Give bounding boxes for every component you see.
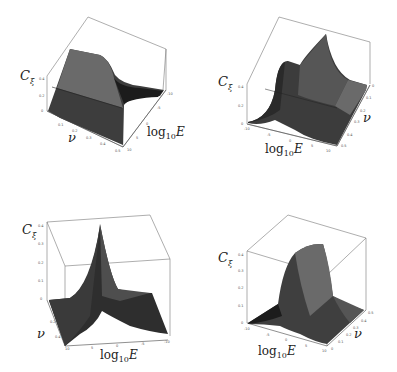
plot-panel-1: Cξ ν log10E 0 0.2 0.4 0.1 0.2 0.3 0.4 0.… [0,0,198,186]
z-tick: 0.3 [38,242,44,246]
z-axis-label: Cξ [218,250,232,268]
y-tick: 0.4 [361,319,367,323]
x-tick: 0.1 [58,123,64,127]
y-tick: 0.1 [366,96,372,100]
plot-panel-4: Cξ log10E ν 0 0.1 0.2 0.3 0.4 -10 -5 0 5… [200,186,397,372]
z-tick: 0.2 [238,104,244,108]
y-tick: 0 [146,122,148,126]
x-tick: 10 [65,347,69,351]
z-tick: 0 [241,321,243,325]
z-tick: 0.1 [238,304,244,308]
x-tick: -10 [244,327,250,331]
y-tick: 0.5 [341,144,347,148]
loge-axis-label: log10E [147,125,185,141]
z-tick: 0.2 [39,94,45,98]
y-tick: 0.3 [353,326,359,330]
y-tick: -5 [157,106,161,110]
x-tick: 0.3 [86,136,92,140]
x-tick: 5 [311,144,313,148]
y-tick: 0.5 [368,311,374,315]
x-tick: 5 [91,346,93,350]
x-tick: -5 [266,333,270,337]
y-tick: 0.2 [360,109,366,113]
y-tick: 0.1 [338,340,344,344]
z-tick: 0.4 [38,224,44,228]
x-tick: 0 [289,139,291,143]
x-tick: 0.2 [72,129,78,133]
y-tick: 5 [136,136,138,140]
z-tick: 0.4 [238,253,244,257]
z-axis-label: Cξ [218,74,232,92]
y-tick: 0.4 [347,133,353,137]
x-tick: -5 [141,342,145,346]
plot-panel-2: Cξ log10E ν 0 0.2 0.4 -10 -5 0 5 10 0 0.… [200,0,397,186]
loge-axis-label: log10E [265,142,303,158]
z-axis-label: Cξ [22,222,36,240]
x-tick: 0 [116,344,118,348]
z-tick: 0.2 [238,286,244,290]
surface-plot-3 [0,186,198,372]
y-tick: 0.4 [55,335,61,339]
y-tick: 0.3 [354,120,360,124]
x-tick: 10 [326,149,330,153]
x-tick: 5 [305,344,307,348]
y-tick: 10 [127,148,131,152]
y-tick: -10 [167,92,173,96]
surface-plot-4 [200,186,397,372]
z-tick: 0 [241,122,243,126]
x-tick: -5 [267,133,271,137]
z-tick: 0.4 [238,85,244,89]
z-tick: 0.3 [238,269,244,273]
z-axis-label: Cξ [20,68,34,86]
y-tick: 0.2 [50,320,56,324]
z-tick: 0.2 [38,261,44,265]
z-tick: 0 [41,109,43,113]
x-tick: -10 [164,340,170,344]
loge-axis-label: log10E [100,348,138,364]
x-tick: 0.4 [100,142,106,146]
y-tick: 0.2 [346,333,352,337]
x-tick: 0 [285,338,287,342]
plot-panel-3: Cξ ν log10E 0 0.1 0.2 0.3 0.4 0.2 0.4 10… [0,186,198,372]
nu-axis-label: ν [37,326,45,341]
z-tick: 0 [40,297,42,301]
x-tick: -10 [244,127,250,131]
y-tick: 0 [331,347,333,351]
x-tick: 0.5 [115,149,121,153]
z-tick: 0.1 [38,279,44,283]
x-tick: 10 [322,349,326,353]
loge-axis-label: log10E [258,344,296,360]
y-tick: 0 [372,84,374,88]
z-tick: 0.4 [39,77,45,81]
